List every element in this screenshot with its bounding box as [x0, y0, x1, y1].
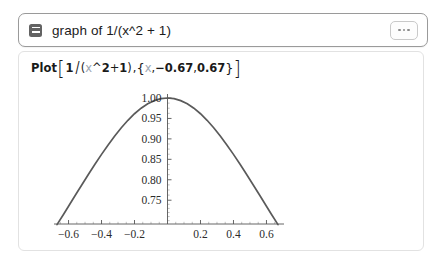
- x-tick-label: −0.4: [91, 228, 112, 240]
- y-tick-label: 1.00: [141, 92, 161, 104]
- expression-close-brace: }: [225, 61, 233, 76]
- expression-open-brace: {: [136, 61, 144, 76]
- expression-slash: /: [75, 59, 79, 77]
- y-tick-label: 0.95: [141, 112, 161, 124]
- list-card-icon: [29, 24, 42, 37]
- expression-plus: +: [110, 61, 120, 75]
- y-tick-label: 0.80: [141, 174, 161, 186]
- x-tick-label: 0.2: [193, 228, 208, 240]
- expression-xmax: 0.67: [197, 61, 225, 75]
- expression-variable-1: x: [85, 61, 92, 75]
- ellipsis-dot-3: [407, 29, 410, 32]
- y-tick-label: 0.90: [141, 133, 161, 145]
- expression-power: 2: [102, 61, 110, 75]
- y-tick-label: 0.75: [141, 194, 161, 206]
- expression-one: 1: [119, 61, 127, 75]
- y-tick-label: 0.85: [141, 153, 161, 165]
- x-axis-tick-labels: −0.6−0.4−0.20.20.40.6: [58, 228, 274, 240]
- ellipsis-dot-2: [403, 29, 406, 32]
- x-tick-label: 0.4: [226, 228, 241, 240]
- ellipsis-icon[interactable]: [390, 21, 418, 40]
- expression-function-name: Plot: [31, 61, 57, 75]
- x-tick-label: −0.2: [124, 228, 145, 240]
- plot-svg: −0.6−0.4−0.20.20.40.6 0.750.800.850.900.…: [29, 82, 319, 250]
- x-tick-label: 0.6: [259, 228, 274, 240]
- expression-numerator: 1: [66, 61, 74, 75]
- plot-figure: −0.6−0.4−0.20.20.40.6 0.750.800.850.900.…: [29, 82, 319, 250]
- expression-variable-2: x: [145, 61, 152, 75]
- query-input-card[interactable]: graph of 1/(x^2 + 1): [18, 13, 428, 47]
- plot-expression: Plot[1/(x^2 + 1), {x, −0.67, 0.67}]: [31, 59, 241, 77]
- expression-fraction: 1/(x^2 + 1): [66, 59, 132, 77]
- expression-caret: ^: [92, 61, 102, 75]
- ellipsis-dot-1: [398, 29, 401, 32]
- result-card: Plot[1/(x^2 + 1), {x, −0.67, 0.67}] −0.6…: [18, 51, 424, 251]
- expression-xmin: −0.67: [155, 61, 193, 75]
- x-tick-label: −0.6: [58, 228, 79, 240]
- query-text[interactable]: graph of 1/(x^2 + 1): [52, 23, 390, 38]
- expression-close-paren: ): [127, 61, 132, 75]
- y-axis-tick-labels: 0.750.800.850.900.951.00: [141, 92, 161, 206]
